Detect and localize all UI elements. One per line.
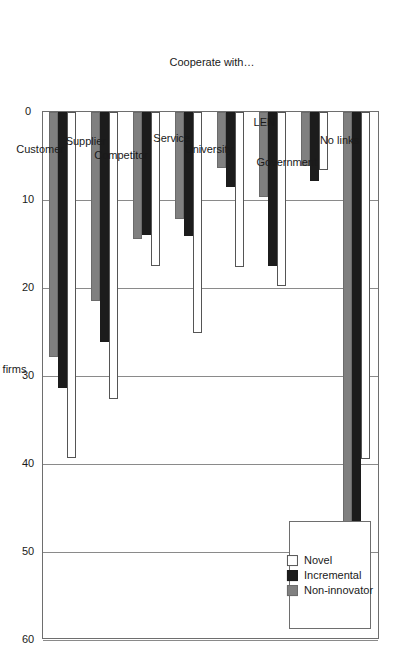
legend-label: Novel <box>304 554 332 566</box>
gridline <box>43 464 378 465</box>
bar-len-novel <box>277 112 286 286</box>
bar-service-incremental <box>184 112 193 236</box>
bar-service-non-innovator <box>175 112 184 219</box>
chart-plot-wrapper: 0102030405060 % of firms No linksGovernm… <box>0 0 401 652</box>
legend-swatch-icon <box>287 570 298 581</box>
legend-swatch-icon <box>287 555 298 566</box>
category-label-government: Government <box>256 156 317 168</box>
bar-chart: 0102030405060 % of firms No linksGovernm… <box>0 0 401 652</box>
category-label-university: University <box>184 143 232 155</box>
legend-swatch-icon <box>287 585 298 596</box>
bar-len-incremental <box>268 112 277 266</box>
category-label-service: Service <box>154 132 191 144</box>
bar-customer-novel <box>67 112 76 458</box>
bar-competitor-incremental <box>142 112 151 235</box>
value-tick-0: 0 <box>25 105 31 117</box>
value-tick-40: 40 <box>22 457 34 469</box>
bar-university-novel <box>235 112 244 267</box>
legend-entry-novel: Novel <box>287 554 373 566</box>
chart-legend: NovelIncrementalNon-innovator <box>289 521 371 629</box>
bar-no-links-novel <box>361 112 370 459</box>
category-label-supplier: Supplier <box>66 135 106 147</box>
legend-entries: NovelIncrementalNon-innovator <box>287 551 373 599</box>
gridline <box>43 640 378 641</box>
category-label-competitor: Competitor <box>95 149 149 161</box>
value-tick-60: 60 <box>22 633 34 645</box>
category-label-no-links: No links <box>320 134 359 146</box>
legend-entry-non-innovator: Non-innovator <box>287 584 373 596</box>
category-axis-title: Cooperate with… <box>170 56 255 68</box>
bar-university-non-innovator <box>217 112 226 168</box>
bar-no-links-incremental <box>352 112 361 546</box>
bar-competitor-non-innovator <box>133 112 142 239</box>
legend-entry-incremental: Incremental <box>287 569 373 581</box>
gridline <box>43 376 378 377</box>
legend-label: Non-innovator <box>304 584 373 596</box>
value-tick-20: 20 <box>22 281 34 293</box>
bar-government-incremental <box>310 112 319 181</box>
category-label-customer: Customer <box>16 143 64 155</box>
value-tick-10: 10 <box>22 193 34 205</box>
value-tick-50: 50 <box>22 545 34 557</box>
legend-label: Incremental <box>304 569 361 581</box>
bar-no-links-non-innovator <box>343 112 352 591</box>
category-label-len: LEN <box>253 116 274 128</box>
value-axis-title: % of firms <box>0 363 26 375</box>
